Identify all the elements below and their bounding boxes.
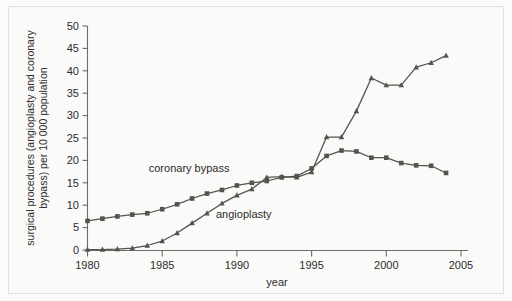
line-chart-svg: 05101520253035404550 1980198519901995200… (0, 0, 512, 301)
x-tick-label: 2005 (449, 259, 473, 271)
y-tick-label: 5 (73, 221, 79, 233)
x-axis-title: year (266, 276, 288, 288)
y-tick-label: 15 (67, 177, 79, 189)
x-tick-label: 1980 (75, 259, 99, 271)
data-point-marker (175, 202, 180, 207)
data-point-marker (414, 163, 419, 168)
data-point-marker (369, 155, 374, 160)
data-point-marker (130, 212, 135, 217)
series-label-angioplasty: angioplasty (216, 208, 272, 220)
y-tick-label: 25 (67, 132, 79, 144)
y-tick-label: 30 (67, 109, 79, 121)
data-point-marker (354, 149, 359, 154)
data-point-marker (339, 148, 344, 153)
data-point-marker (145, 211, 150, 216)
x-tick-label: 1985 (150, 259, 174, 271)
y-tick-label: 0 (73, 244, 79, 256)
data-point-marker (429, 163, 434, 168)
data-point-marker (384, 155, 389, 160)
x-tick-label: 2000 (374, 259, 398, 271)
y-tick-label: 50 (67, 20, 79, 32)
x-axis-ticks: 198019851990199520002005 (75, 251, 473, 272)
y-tick-label: 35 (67, 87, 79, 99)
y-axis-title-line1: surgical procedures (angioplasty and cor… (24, 30, 36, 246)
series-line (88, 56, 447, 250)
y-axis-title-line2: bypass) per 10 000 population (37, 67, 49, 208)
y-tick-label: 20 (67, 154, 79, 166)
data-point-marker (205, 191, 210, 196)
y-axis-ticks: 05101520253035404550 (67, 20, 88, 256)
y-tick-label: 45 (67, 42, 79, 54)
series-angioplasty (85, 53, 449, 252)
data-point-marker (189, 220, 195, 225)
x-tick-label: 1995 (299, 259, 323, 271)
data-point-marker (100, 216, 105, 221)
data-point-marker (174, 230, 180, 235)
series-label-coronary-bypass: coronary bypass (149, 162, 230, 174)
data-point-marker (399, 161, 404, 166)
data-point-marker (190, 196, 195, 201)
chart-figure: 05101520253035404550 1980198519901995200… (0, 0, 512, 301)
data-point-marker (324, 154, 329, 159)
series-layer (85, 53, 449, 252)
data-point-marker (204, 210, 210, 215)
axes-group (88, 26, 469, 251)
data-point-marker (235, 183, 240, 188)
axis-titles: year surgical procedures (angioplasty an… (24, 30, 288, 288)
data-point-marker (444, 171, 449, 176)
data-point-marker (85, 219, 90, 224)
data-point-marker (369, 75, 375, 80)
data-point-marker (220, 188, 225, 193)
x-tick-label: 1990 (225, 259, 249, 271)
data-point-marker (160, 207, 165, 212)
data-point-marker (250, 181, 255, 186)
y-tick-label: 40 (67, 65, 79, 77)
data-point-marker (354, 108, 360, 113)
data-point-marker (443, 53, 449, 58)
data-point-marker (115, 214, 120, 219)
y-tick-label: 10 (67, 199, 79, 211)
plot-area-wrapper: 05101520253035404550 1980198519901995200… (0, 0, 512, 301)
